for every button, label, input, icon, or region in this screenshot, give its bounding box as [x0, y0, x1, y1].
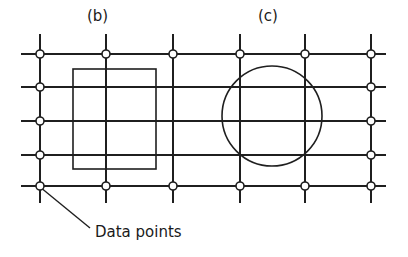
data-points-callout-label: Data points [95, 225, 182, 240]
data-point-marker [367, 182, 375, 190]
data-point-marker [36, 50, 44, 58]
data-point-marker [102, 50, 110, 58]
data-point-marker [36, 182, 44, 190]
data-point-marker [236, 50, 244, 58]
data-point-marker [36, 117, 44, 125]
data-point-marker [301, 50, 309, 58]
callout-leader-line [40, 187, 90, 228]
data-point-marker [367, 83, 375, 91]
data-point-marker [36, 83, 44, 91]
data-point-marker [367, 151, 375, 159]
data-point-marker [169, 182, 177, 190]
panel-label-c: (c) [258, 9, 278, 24]
data-point-marker [367, 50, 375, 58]
grid-diagram [0, 0, 408, 257]
data-point-marker [236, 182, 244, 190]
data-point-marker [169, 50, 177, 58]
data-point-marker [36, 151, 44, 159]
circle-shape [222, 66, 322, 166]
data-point-marker [301, 182, 309, 190]
panel-label-b: (b) [87, 9, 108, 24]
data-point-marker [367, 117, 375, 125]
data-point-marker [102, 182, 110, 190]
horizontal-grid-lines [21, 54, 386, 186]
